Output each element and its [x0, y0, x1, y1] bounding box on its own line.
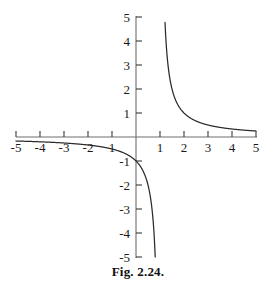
- y-tick-label: 2: [124, 83, 131, 96]
- y-tick-label: -1: [119, 155, 130, 168]
- x-tick-label: 1: [109, 141, 116, 154]
- x-tick-label: 3: [205, 141, 212, 154]
- curve-left-branch: [16, 141, 155, 257]
- x-tick-label: -5: [11, 141, 22, 154]
- figure-caption: Fig. 2.24.: [0, 264, 276, 280]
- plot-area: -5-4-3-211234554321-1-2-3-4-5: [0, 0, 276, 262]
- y-tick-label: -4: [119, 227, 130, 240]
- curve-right-branch: [165, 22, 256, 131]
- plot-svg: [0, 0, 276, 262]
- x-tick-label: 5: [253, 141, 260, 154]
- y-tick-label: 5: [124, 11, 131, 24]
- x-tick-label: 4: [229, 141, 236, 154]
- x-tick-label: -3: [59, 141, 70, 154]
- y-tick-label: -5: [119, 251, 130, 264]
- x-tick-label: -4: [35, 141, 46, 154]
- y-tick-label: 4: [124, 35, 131, 48]
- y-tick-label: -3: [119, 203, 130, 216]
- y-tick-label: -2: [119, 179, 130, 192]
- axes-group: [16, 16, 257, 258]
- x-tick-label: 2: [181, 141, 188, 154]
- figure-container: -5-4-3-211234554321-1-2-3-4-5 Fig. 2.24.: [0, 0, 276, 288]
- x-tick-label: -2: [83, 141, 94, 154]
- y-tick-label: 1: [124, 107, 131, 120]
- x-tick-label: 1: [157, 141, 164, 154]
- y-tick-label: 3: [124, 59, 131, 72]
